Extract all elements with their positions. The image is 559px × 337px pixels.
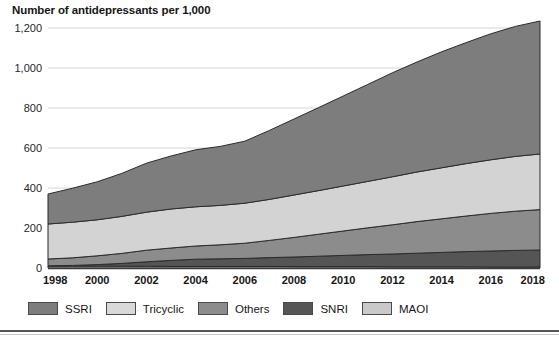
y-tick-label: 600 bbox=[24, 142, 42, 154]
legend-item-ssri[interactable]: SSRI bbox=[28, 302, 92, 315]
legend-item-snri[interactable]: SNRI bbox=[283, 302, 347, 315]
legend-swatch-maoi bbox=[362, 302, 392, 315]
chart-container: Number of antidepressants per 1,000 0200… bbox=[0, 0, 559, 337]
x-tick-label: 2002 bbox=[134, 274, 158, 286]
y-tick-label: 200 bbox=[24, 222, 42, 234]
x-tick-label: 2006 bbox=[233, 274, 257, 286]
x-tick-label: 2016 bbox=[479, 274, 503, 286]
legend-swatch-ssri bbox=[28, 302, 58, 315]
area-series-group bbox=[48, 21, 540, 268]
legend-label: SSRI bbox=[65, 303, 92, 315]
y-tick-label: 0 bbox=[36, 262, 42, 274]
y-tick-label: 400 bbox=[24, 182, 42, 194]
x-tick-label: 1998 bbox=[43, 274, 67, 286]
legend-label: Tricyclic bbox=[143, 303, 184, 315]
footer-divider-secondary bbox=[0, 334, 559, 335]
y-tick-label: 1,200 bbox=[14, 22, 42, 34]
x-tick-label: 2012 bbox=[380, 274, 404, 286]
x-tick-label: 2008 bbox=[282, 274, 306, 286]
x-tick-label: 2004 bbox=[183, 274, 208, 286]
legend-swatch-others bbox=[198, 302, 228, 315]
y-tick-label: 1,000 bbox=[14, 62, 42, 74]
x-tick-label: 2010 bbox=[331, 274, 355, 286]
stacked-area-chart: 02004006008001,0001,200 1998200020022004… bbox=[0, 0, 559, 300]
footer-divider bbox=[0, 330, 559, 332]
legend-label: Others bbox=[235, 303, 270, 315]
legend-item-others[interactable]: Others bbox=[198, 302, 270, 315]
legend-swatch-snri bbox=[283, 302, 313, 315]
x-axis-tick-labels: 1998200020022004200620082010201220142016… bbox=[43, 274, 545, 286]
y-tick-label: 800 bbox=[24, 102, 42, 114]
chart-legend: SSRITricyclicOthersSNRIMAOI bbox=[28, 302, 442, 315]
legend-label: SNRI bbox=[320, 303, 347, 315]
legend-item-tricyclic[interactable]: Tricyclic bbox=[106, 302, 184, 315]
legend-label: MAOI bbox=[399, 303, 428, 315]
x-tick-label: 2000 bbox=[85, 274, 109, 286]
x-tick-label: 2014 bbox=[429, 274, 454, 286]
legend-item-maoi[interactable]: MAOI bbox=[362, 302, 428, 315]
y-axis-tick-labels: 02004006008001,0001,200 bbox=[14, 22, 42, 274]
x-tick-label: 2018 bbox=[521, 274, 545, 286]
legend-swatch-tricyclic bbox=[106, 302, 136, 315]
